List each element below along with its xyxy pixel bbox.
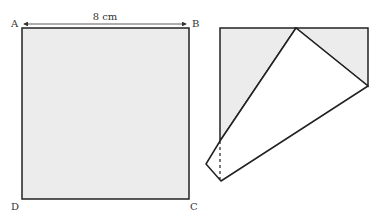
side-length-label: 8 cm <box>93 11 118 22</box>
vertex-b-label: B <box>192 18 199 29</box>
square-figure: 8 cm A B D C <box>10 11 199 212</box>
folded-figure <box>206 28 368 181</box>
diagram-canvas: 8 cm A B D C <box>0 0 380 217</box>
vertex-c-label: C <box>190 201 198 212</box>
vertex-a-label: A <box>10 18 19 29</box>
vertex-d-label: D <box>11 201 19 212</box>
square-abcd <box>22 28 189 199</box>
